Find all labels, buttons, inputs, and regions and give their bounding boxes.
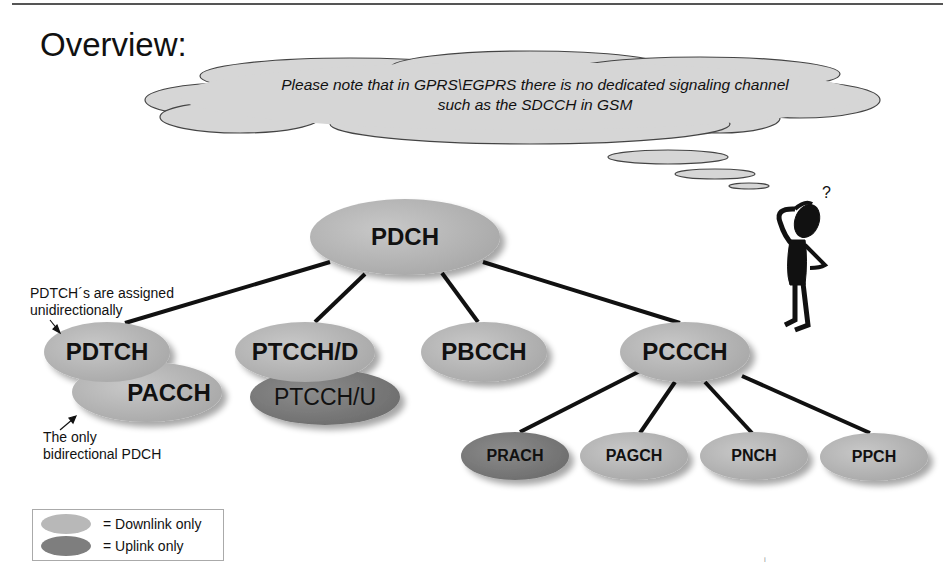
pacch-annotation-line2: bidirectional PDCH	[43, 446, 161, 463]
thinking-person-icon: ?	[779, 184, 831, 330]
legend-downlink: = Downlink only	[41, 514, 201, 534]
pacch-annotation-line1: The only	[43, 429, 161, 446]
cloud-note-line1: Please note that in GPRS\EGPRS there is …	[200, 75, 870, 95]
legend-uplink-label: = Uplink only	[103, 538, 184, 554]
node-pacch: PACCH	[84, 368, 234, 418]
uplink-swatch	[41, 536, 91, 556]
legend: = Downlink only = Uplink only	[32, 509, 224, 561]
node-pnch: PNCH	[700, 432, 808, 480]
svg-text:?: ?	[822, 184, 831, 201]
downlink-swatch	[41, 514, 91, 534]
node-prach: PRACH	[461, 432, 569, 480]
cloud-note-line2: such as the SDCCH in GSM	[200, 95, 870, 115]
pdtch-annotation: PDTCH´s are assigned unidirectionally	[30, 285, 174, 319]
pdtch-annotation-line1: PDTCH´s are assigned	[30, 285, 174, 302]
node-ppch: PPCH	[820, 433, 928, 481]
cloud-note: Please note that in GPRS\EGPRS there is …	[200, 75, 870, 115]
node-pccch: PCCCH	[620, 322, 750, 382]
pacch-annotation: The only bidirectional PDCH	[43, 429, 161, 463]
node-ptcch-u: PTCCH/U	[250, 372, 400, 422]
pdtch-annotation-line2: unidirectionally	[30, 302, 174, 319]
footer-mark: i	[764, 555, 766, 564]
node-pagch: PAGCH	[580, 432, 688, 480]
legend-downlink-label: = Downlink only	[103, 516, 201, 532]
thought-bubbles	[608, 150, 769, 189]
node-pdch: PDCH	[310, 199, 500, 275]
legend-uplink: = Uplink only	[41, 536, 184, 556]
node-pbcch: PBCCH	[421, 322, 547, 382]
